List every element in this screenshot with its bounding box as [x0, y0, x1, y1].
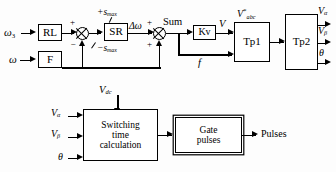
arrow-into-sr	[97, 29, 103, 35]
output-label-pulses: Pulses	[261, 129, 287, 139]
wire-branch-to-f	[178, 33, 180, 56]
input-label-v-beta: Vβ	[51, 129, 60, 140]
arrow-out-theta	[325, 59, 331, 65]
block-tp2: Tp2	[285, 14, 318, 70]
sign-junction2-plus-bottom: +	[147, 40, 152, 49]
label-s-max-positive: +smax	[97, 8, 117, 18]
block-f: F	[38, 51, 62, 68]
input-label-vdc: Vdc	[99, 85, 112, 96]
switching-label-line2: time	[112, 130, 129, 140]
block-f-label: F	[47, 54, 53, 66]
block-tp1: Tp1	[234, 22, 270, 62]
arrow-out-vbeta	[325, 39, 331, 45]
block-sr: SR	[104, 23, 128, 41]
input-label-omega: ω	[9, 54, 17, 65]
wire-f-to-tp1	[178, 54, 232, 56]
block-rl-label: RL	[43, 27, 57, 39]
switching-label-line1: Switching	[101, 120, 140, 130]
arrow-feedback-junction1	[79, 40, 85, 46]
block-sr-label: SR	[109, 26, 122, 38]
output-label-v-beta: Vβ	[318, 26, 327, 37]
label-delta-omega: Δω	[129, 21, 142, 31]
sign-junction1-minus: −	[71, 40, 76, 49]
label-v: V	[219, 19, 225, 30]
arrow-out-pulses	[252, 131, 258, 137]
arrow-into-gate-pulses	[167, 131, 173, 137]
label-s-max-negative: −smax	[97, 44, 117, 54]
block-kv: Kv	[193, 25, 216, 40]
output-label-v-alpha: Vα	[318, 6, 327, 17]
summing-junction-1	[76, 27, 89, 40]
block-switching-time-calculation: Switching time calculation	[83, 109, 158, 161]
sign-junction1-plus: +	[70, 18, 75, 27]
wire-f-feedback-bus	[62, 67, 161, 69]
block-tp1-label: Tp1	[243, 36, 261, 48]
input-label-theta: θ	[58, 152, 63, 162]
gate-label-line2: pulses	[197, 135, 221, 145]
label-sum: Sum	[163, 17, 182, 28]
block-tp2-label: Tp2	[293, 36, 311, 48]
label-f: f	[198, 58, 201, 69]
output-label-theta: θ	[319, 48, 324, 58]
input-label-omega-ref: ω3	[4, 27, 15, 39]
arrow-feedback-junction2	[156, 40, 162, 46]
arrow-into-f	[30, 56, 36, 62]
summing-junction-2	[153, 27, 166, 40]
control-block-diagram: ω3 RL + − SR +smax −smax Δω + + Sum f Kv…	[0, 0, 336, 172]
wire-feedback-to-junction2	[159, 45, 161, 67]
sign-junction2-plus-top: +	[147, 18, 152, 27]
block-gate-pulses: Gate pulses	[175, 117, 242, 153]
switching-label-line3: calculation	[100, 140, 142, 150]
label-v-abc-star: V*abc	[237, 8, 256, 20]
gate-label-line1: Gate	[200, 125, 218, 135]
arrow-into-rl	[30, 29, 36, 35]
input-label-v-alpha: Vα	[51, 108, 60, 119]
wire-feedback-to-junction1	[82, 45, 84, 67]
block-kv-label: Kv	[198, 27, 210, 38]
block-rl: RL	[38, 24, 62, 41]
leader-s-max-negative	[91, 42, 96, 48]
